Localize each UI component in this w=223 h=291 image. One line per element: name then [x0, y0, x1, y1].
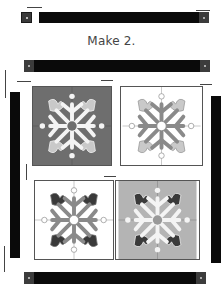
- press-arrow-icon: [27, 7, 42, 8]
- press-arrow-icon: [17, 81, 31, 82]
- press-arrow-icon: [5, 70, 6, 98]
- strip-end-square: [200, 60, 210, 72]
- strip-end-square: [199, 12, 209, 23]
- block-top-left: [32, 86, 112, 166]
- snowflake-motif-icon: [116, 181, 199, 259]
- block-bottom-right: [115, 180, 200, 260]
- left-border-strip: [10, 92, 20, 258]
- press-arrow-icon: [104, 176, 116, 177]
- strip-end-square: [24, 272, 34, 284]
- snowflake-motif-icon: [121, 87, 202, 165]
- upper-border-strip: [24, 60, 210, 72]
- block-bottom-left: [34, 180, 114, 260]
- press-arrow-icon: [4, 246, 5, 272]
- snowflake-motif-icon: [33, 87, 111, 165]
- press-arrow-icon: [196, 10, 210, 11]
- press-arrow-icon: [101, 80, 113, 81]
- top-border-strip: [39, 12, 209, 23]
- right-border-strip: [211, 96, 221, 263]
- strip-end-square: [24, 60, 34, 72]
- instruction-label: Make 2.: [0, 34, 223, 48]
- strip-end-square: [196, 272, 206, 284]
- block-top-right: [120, 86, 203, 166]
- press-arrow-icon: [26, 164, 27, 180]
- snowflake-motif-icon: [35, 181, 113, 259]
- press-arrow-icon: [200, 84, 212, 85]
- top-corner-square: [21, 12, 32, 23]
- bottom-border-strip: [24, 272, 206, 284]
